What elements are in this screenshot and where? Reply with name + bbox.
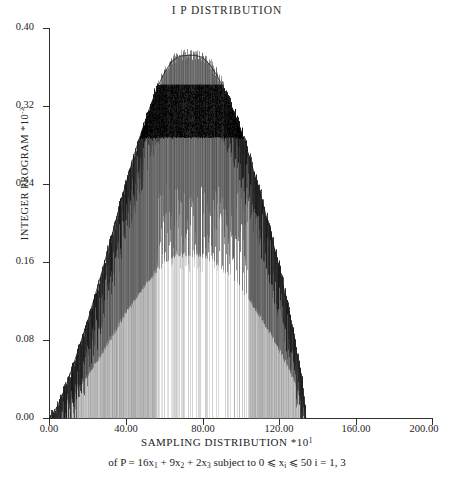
chart-figure: I P DISTRIBUTION 0.40 0.32 0.24 0.16 0.0… <box>0 0 454 484</box>
spike-plot-canvas <box>0 0 454 484</box>
